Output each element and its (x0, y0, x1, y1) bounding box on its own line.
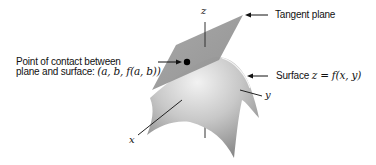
surface-label: Surface z = f(x, y) (276, 70, 361, 81)
arrow-surface-icon (247, 74, 268, 79)
axis-y-label: y (265, 89, 270, 100)
contact-label-line2: plane and surface: (a, b, f(a, b)) (16, 66, 161, 77)
axis-z-label: z (201, 5, 206, 16)
contact-label-text: plane and surface: (16, 66, 97, 77)
contact-point-coords: (a, b, f(a, b)) (97, 65, 160, 77)
contact-point-dot (184, 59, 190, 65)
tangent-plane-label: Tangent plane (275, 9, 335, 20)
axis-x-label: x (129, 134, 134, 145)
surface-equation: z = f(x, y) (312, 69, 361, 81)
surface-label-text: Surface (276, 70, 312, 81)
arrow-tangent-plane-icon (245, 13, 268, 18)
diagram-canvas (0, 0, 376, 165)
